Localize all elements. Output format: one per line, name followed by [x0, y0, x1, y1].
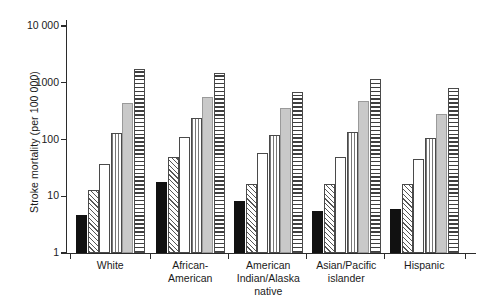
bar: [436, 114, 447, 253]
bar-group: [390, 14, 459, 253]
x-category-label: African- American: [145, 259, 235, 285]
x-category-label: American Indian/Alaska native: [223, 259, 313, 298]
y-tick: [61, 196, 67, 197]
bar: [292, 92, 303, 253]
bar: [202, 97, 213, 253]
bar: [280, 108, 291, 253]
bar: [111, 133, 122, 253]
bar-group: [312, 14, 381, 253]
bar: [257, 153, 268, 253]
plot-area: 10 0001000100101: [66, 14, 476, 253]
bar: [370, 79, 381, 253]
x-axis-line: [66, 253, 476, 254]
bar: [358, 101, 369, 253]
bar: [347, 132, 358, 253]
y-tick: [61, 82, 67, 83]
x-category-label: White: [65, 259, 155, 272]
bar: [88, 190, 99, 253]
bar: [425, 138, 436, 253]
bar: [134, 69, 145, 253]
bar-group: [234, 14, 303, 253]
y-tick-label: 1: [53, 247, 59, 258]
bar: [448, 88, 459, 253]
bar: [335, 157, 346, 253]
bar: [156, 182, 167, 253]
bar: [122, 103, 133, 253]
bar: [234, 201, 245, 253]
bar: [402, 184, 413, 253]
bar: [246, 184, 257, 253]
bar: [269, 135, 280, 253]
bar: [413, 159, 424, 253]
x-category-label: Asian/Pacific islander: [301, 259, 391, 285]
y-tick: [61, 252, 67, 253]
bar: [324, 184, 335, 253]
x-category-label: Hispanic: [379, 259, 469, 272]
bar-group: [156, 14, 225, 253]
y-axis-line: [66, 20, 67, 253]
bar: [179, 137, 190, 253]
y-tick: [61, 25, 67, 26]
bar: [99, 164, 110, 253]
bar: [214, 73, 225, 253]
bar: [76, 215, 87, 253]
y-tick-label: 10: [47, 190, 59, 201]
bar: [312, 211, 323, 253]
y-tick-label: 100: [41, 134, 59, 145]
bar: [191, 118, 202, 253]
y-tick-label: 10 000: [27, 20, 59, 31]
y-tick: [61, 139, 67, 140]
bar-group: [76, 14, 145, 253]
stroke-mortality-bar-chart: Stroke mortality (per 100 000) 10 000100…: [0, 0, 494, 307]
bar: [390, 209, 401, 253]
y-tick-label: 1000: [36, 77, 59, 88]
y-axis-title: Stroke mortality (per 100 000): [28, 42, 40, 242]
bar: [168, 157, 179, 253]
